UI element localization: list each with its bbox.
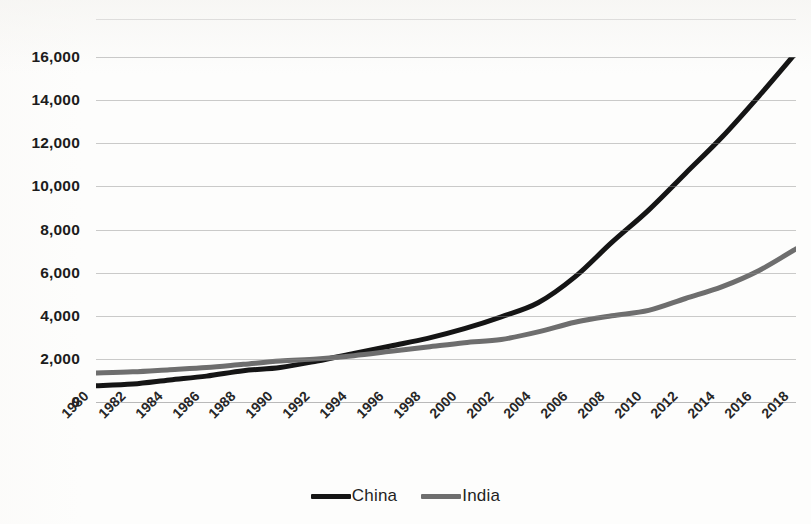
legend-line-swatch <box>421 494 461 499</box>
legend-entry-china[interactable]: China <box>311 486 397 506</box>
y-axis-tick-label: 4,000 <box>40 307 80 325</box>
gridline-16000 <box>96 57 796 58</box>
gridline-10000 <box>96 186 796 187</box>
chart-legend: ChinaIndia <box>0 486 811 506</box>
legend-label: China <box>352 486 397 506</box>
chart-top-border <box>96 19 796 20</box>
legend-entry-india[interactable]: India <box>421 486 500 506</box>
y-axis-tick-label: 14,000 <box>31 91 80 109</box>
y-axis-tick-label: 16,000 <box>31 48 80 66</box>
plot-area <box>96 57 796 402</box>
series-line-china <box>96 57 796 386</box>
x-axis: 1980198219841986198819901992199419961998… <box>96 404 796 474</box>
gridline-14000 <box>96 100 796 101</box>
y-axis-tick-label: 12,000 <box>31 134 80 152</box>
chart-screenshot: 02,0004,0006,0008,00010,00012,00014,0001… <box>0 0 811 524</box>
legend-label: India <box>462 486 500 506</box>
y-axis-tick-label: 8,000 <box>40 221 80 239</box>
y-axis-tick-label: 6,000 <box>40 264 80 282</box>
legend-line-swatch <box>311 494 351 499</box>
gridline-8000 <box>96 230 796 231</box>
y-axis-tick-label: 10,000 <box>31 177 80 195</box>
gridline-4000 <box>96 316 796 317</box>
y-axis: 02,0004,0006,0008,00010,00012,00014,0001… <box>0 57 88 402</box>
series-line-india <box>96 249 796 373</box>
gridline-12000 <box>96 143 796 144</box>
gridline-2000 <box>96 359 796 360</box>
y-axis-tick-label: 2,000 <box>40 350 80 368</box>
gridline-6000 <box>96 273 796 274</box>
